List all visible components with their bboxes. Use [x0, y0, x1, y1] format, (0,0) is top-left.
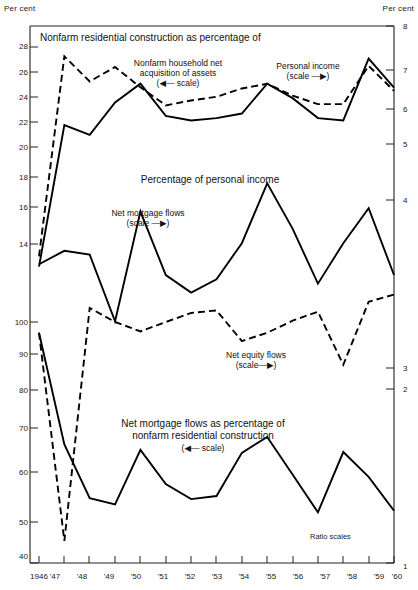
series-line-3 — [39, 295, 394, 541]
axis-frame — [30, 26, 394, 563]
series-line-2 — [39, 183, 394, 321]
left-tick-marks — [30, 47, 38, 563]
chart-figure: Per cent Per cent 28 26 24 22 20 18 16 1… — [0, 0, 418, 590]
series-layer — [39, 56, 394, 541]
series-line-1 — [39, 59, 394, 267]
x-tick-marks — [39, 556, 394, 563]
series-line-0 — [39, 56, 394, 256]
chart-canvas — [0, 0, 418, 590]
